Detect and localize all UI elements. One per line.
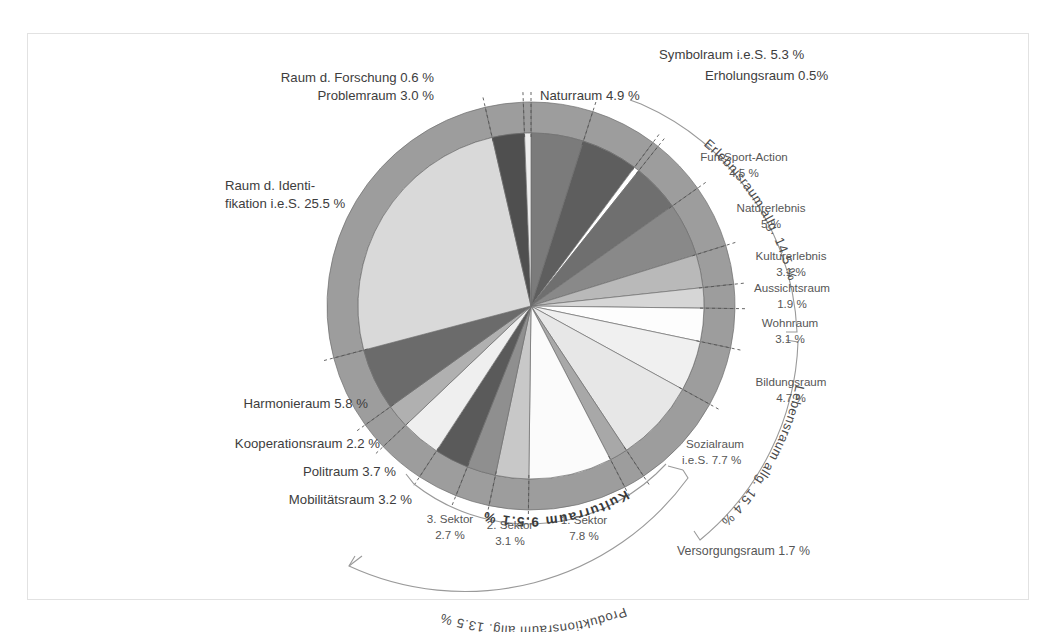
label-bildungsraum: Bildungsraum bbox=[736, 375, 846, 389]
label-sektor-1: 1. Sektor bbox=[542, 513, 626, 527]
label-erholungsraum: Erholungsraum 0.5% bbox=[705, 68, 828, 84]
label-wohnraum: Wohnraum bbox=[740, 316, 840, 330]
label-problemraum: Problemraum 3.0 % bbox=[206, 88, 434, 104]
label-kulturerlebnis-value: 3.1 % bbox=[737, 265, 845, 279]
label-fun-sport-action-value: 4.5 % bbox=[685, 166, 803, 180]
label-sozialraum: Sozialraum bbox=[686, 437, 744, 451]
label-sektor-1-value: 7.8 % bbox=[542, 529, 626, 543]
label-aussichtsraum-value: 1.9 % bbox=[737, 297, 847, 311]
label-sozialraum-value: i.e.S. 7.7 % bbox=[682, 453, 741, 467]
label-raum-der-forschung: Raum d. Forschung 0.6 % bbox=[206, 70, 434, 86]
label-kooperationsraum: Kooperationsraum 2.2 % bbox=[92, 436, 380, 452]
label-politraum: Politraum 3.7 % bbox=[110, 464, 396, 480]
label-sektor-3: 3. Sektor bbox=[410, 512, 490, 526]
group-label-produktionsraum: Produktionsraum allg. 13.5 % bbox=[438, 605, 629, 632]
pie-slices bbox=[358, 133, 704, 479]
label-fun-sport-action: Fun-Sport-Action bbox=[685, 150, 803, 164]
label-naturraum: Naturraum 4.9 % bbox=[540, 88, 640, 104]
label-wohnraum-value: 3.1 % bbox=[740, 332, 840, 346]
ring-segment bbox=[485, 102, 524, 137]
label-naturerlebnis-value: 5 % bbox=[716, 217, 826, 231]
ring-segment bbox=[703, 284, 735, 308]
label-symbolraum: Symbolraum i.e.S. 5.3 % bbox=[659, 47, 804, 63]
label-aussichtsraum: Aussichtsraum bbox=[737, 281, 847, 295]
pie-chart-figure: Erlebnisraum allg. 14.5 % Lebensraum all… bbox=[0, 0, 1058, 632]
label-kulturerlebnis: Kulturerlebnis bbox=[737, 249, 845, 263]
label-mobilitaetsraum: Mobilitätsraum 3.2 % bbox=[130, 492, 412, 508]
label-harmonieraum: Harmonieraum 5.8 % bbox=[88, 396, 368, 412]
label-sektor-3-value: 2.7 % bbox=[410, 528, 490, 542]
label-raum-der-identifikation-line2: fikation i.e.S. 25.5 % bbox=[225, 196, 345, 212]
label-raum-der-identifikation-line1: Raum d. Identi- bbox=[225, 178, 315, 194]
ring-segment bbox=[700, 308, 735, 348]
label-bildungsraum-value: 4.7 % bbox=[736, 391, 846, 405]
label-versorgungsraum: Versorgungsraum 1.7 % bbox=[677, 544, 810, 559]
label-naturerlebnis: Naturerlebnis bbox=[716, 201, 826, 215]
ring-segment bbox=[489, 475, 529, 510]
